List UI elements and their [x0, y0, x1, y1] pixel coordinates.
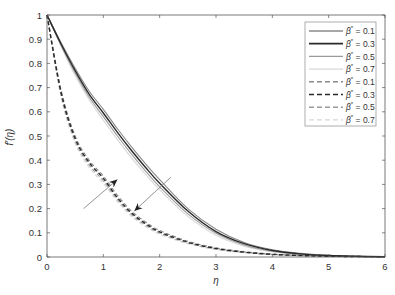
y-tick-label: 0.4	[29, 155, 42, 166]
x-tick-label: 5	[326, 261, 331, 272]
y-axis-label: f'(η)	[4, 129, 15, 146]
legend-label: β* = 0.5	[345, 101, 375, 112]
x-tick-label: 6	[382, 261, 387, 272]
y-tick-label: 0.5	[29, 131, 42, 142]
legend-label: β* = 0.3	[345, 38, 375, 49]
legend-label: β* = 0.7	[345, 114, 375, 125]
y-tick-label: 0.7	[29, 82, 42, 93]
chart: 012345600.10.20.30.40.50.60.70.80.91 η f…	[0, 0, 395, 295]
y-tick-label: 0.6	[29, 106, 42, 117]
x-axis-label: η	[213, 275, 219, 286]
legend: β* = 0.1β* = 0.3β* = 0.5β* = 0.7β* = 0.1…	[305, 22, 376, 126]
y-tick-label: 1	[37, 10, 42, 21]
y-tick-label: 0.2	[29, 203, 42, 214]
y-tick-label: 0	[37, 252, 42, 263]
y-tick-label: 0.1	[29, 227, 42, 238]
x-tick-label: 4	[270, 261, 275, 272]
legend-label: β* = 0.7	[345, 63, 375, 74]
legend-label: β* = 0.5	[345, 51, 375, 62]
x-tick-label: 2	[157, 261, 162, 272]
x-tick-label: 1	[101, 261, 106, 272]
x-tick-label: 3	[213, 261, 218, 272]
y-tick-label: 0.3	[29, 179, 42, 190]
legend-label: β* = 0.1	[345, 25, 375, 36]
legend-label: β* = 0.1	[345, 76, 375, 87]
y-tick-label: 0.8	[29, 58, 42, 69]
x-tick-label: 0	[44, 261, 49, 272]
legend-label: β* = 0.3	[345, 89, 375, 100]
y-tick-label: 0.9	[29, 34, 42, 45]
